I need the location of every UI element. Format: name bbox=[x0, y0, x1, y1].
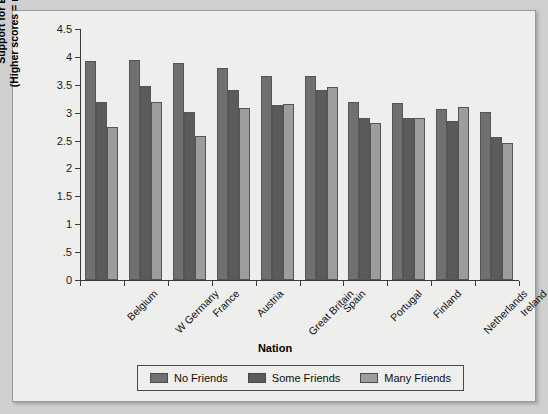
y-axis-tick-label: 0 bbox=[66, 275, 72, 286]
y-axis-tick-label: 3.5 bbox=[57, 79, 72, 90]
y-axis-tick-label: .5 bbox=[63, 247, 72, 258]
bar bbox=[359, 118, 370, 280]
bar bbox=[491, 137, 502, 280]
legend-item[interactable]: No Friends bbox=[150, 372, 228, 384]
y-axis-title: Support for Exclusion (Higher scores = m… bbox=[0, 0, 21, 99]
chart-figure: Support for Exclusion (Higher scores = m… bbox=[12, 10, 536, 402]
y-axis-tick bbox=[75, 224, 80, 225]
bar-group bbox=[436, 29, 469, 280]
y-axis-tick bbox=[75, 85, 80, 86]
x-axis-tick bbox=[212, 281, 213, 286]
y-axis-tick bbox=[75, 29, 80, 30]
y-axis-tick-label: 2 bbox=[66, 163, 72, 174]
bar bbox=[239, 108, 250, 280]
bar bbox=[107, 127, 118, 280]
bar bbox=[436, 109, 447, 280]
y-axis-tick bbox=[75, 168, 80, 169]
bar bbox=[348, 102, 359, 280]
bar bbox=[184, 112, 195, 280]
x-axis-tick-label: Austria bbox=[255, 288, 286, 319]
bar bbox=[129, 60, 140, 280]
x-axis-title: Nation bbox=[13, 342, 537, 354]
bar-group bbox=[173, 29, 206, 280]
plot-area: 0.511.522.533.544.5 bbox=[80, 29, 519, 281]
x-axis-tick bbox=[387, 281, 388, 286]
bar-group bbox=[217, 29, 250, 280]
y-axis-title-line2: (Higher scores = more support) bbox=[8, 0, 21, 99]
y-axis-title-line1: Support for Exclusion bbox=[0, 0, 8, 99]
bar bbox=[414, 118, 425, 280]
bar bbox=[403, 118, 414, 280]
x-axis-tick bbox=[80, 281, 81, 286]
bar bbox=[316, 90, 327, 280]
y-axis-tick-label: 4.5 bbox=[57, 24, 72, 35]
y-axis-tick-label: 1.5 bbox=[57, 191, 72, 202]
bar-group bbox=[305, 29, 338, 280]
y-axis-tick bbox=[75, 252, 80, 253]
y-axis-tick bbox=[75, 57, 80, 58]
bar bbox=[305, 76, 316, 280]
bar bbox=[370, 123, 381, 280]
y-axis-tick-label: 4 bbox=[66, 51, 72, 62]
x-axis-tick bbox=[168, 281, 169, 286]
legend-swatch-icon bbox=[248, 373, 266, 383]
bar-group bbox=[85, 29, 118, 280]
bar bbox=[458, 107, 469, 280]
y-axis-line bbox=[80, 29, 81, 281]
bar-group bbox=[261, 29, 294, 280]
bar bbox=[85, 61, 96, 280]
legend-label: Many Friends bbox=[384, 372, 451, 384]
bar bbox=[217, 68, 228, 281]
bar-group bbox=[129, 29, 162, 280]
bar-group bbox=[392, 29, 425, 280]
legend-swatch-icon bbox=[150, 373, 168, 383]
bar bbox=[261, 76, 272, 280]
x-axis-tick bbox=[343, 281, 344, 286]
bar bbox=[195, 136, 206, 280]
bar-group bbox=[348, 29, 381, 280]
y-axis-tick bbox=[75, 113, 80, 114]
y-axis-tick bbox=[75, 141, 80, 142]
x-axis-tick bbox=[431, 281, 432, 286]
y-axis-tick-label: 3 bbox=[66, 107, 72, 118]
bar bbox=[447, 121, 458, 280]
legend-swatch-icon bbox=[360, 373, 378, 383]
legend-label: No Friends bbox=[174, 372, 228, 384]
bar bbox=[480, 112, 491, 280]
x-axis-tick-label: Finland bbox=[431, 288, 463, 320]
x-axis-tick bbox=[256, 281, 257, 286]
x-axis-tick-label: Belgium bbox=[125, 288, 159, 322]
bar bbox=[228, 90, 239, 280]
x-axis-tick bbox=[519, 281, 520, 286]
bar bbox=[392, 103, 403, 280]
bar bbox=[327, 87, 338, 280]
bar bbox=[151, 102, 162, 280]
bar bbox=[173, 63, 184, 280]
bar bbox=[283, 104, 294, 280]
bar-group bbox=[480, 29, 513, 280]
bar bbox=[502, 143, 513, 280]
y-axis-tick-label: 2.5 bbox=[57, 135, 72, 146]
legend-label: Some Friends bbox=[272, 372, 340, 384]
x-axis-tick-label: Portugal bbox=[388, 288, 423, 323]
x-axis-tick bbox=[124, 281, 125, 286]
legend-item[interactable]: Some Friends bbox=[248, 372, 340, 384]
y-axis-tick bbox=[75, 196, 80, 197]
x-axis-tick bbox=[475, 281, 476, 286]
bar bbox=[272, 105, 283, 280]
bar bbox=[140, 86, 151, 280]
chart-legend: No FriendsSome FriendsMany Friends bbox=[137, 365, 464, 391]
bar bbox=[96, 102, 107, 280]
x-axis-tick bbox=[300, 281, 301, 286]
legend-item[interactable]: Many Friends bbox=[360, 372, 451, 384]
y-axis-tick-label: 1 bbox=[66, 219, 72, 230]
